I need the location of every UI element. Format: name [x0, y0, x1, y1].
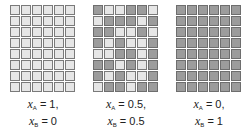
subscript-a: A — [33, 105, 37, 111]
site-species-a — [54, 60, 64, 70]
site-species-b — [231, 38, 241, 48]
panel-equal-mixture: xA = 0.5, xB = 0.5 — [84, 0, 168, 129]
site-species-a — [21, 49, 31, 59]
site-species-b — [115, 49, 125, 59]
site-species-a — [43, 5, 53, 15]
site-species-a — [10, 49, 20, 59]
subscript-b: B — [200, 122, 204, 128]
site-species-b — [104, 60, 114, 70]
site-species-a — [43, 27, 53, 37]
site-species-b — [176, 49, 186, 59]
site-species-a — [32, 71, 42, 81]
subscript-b: B — [34, 122, 38, 128]
site-species-a — [21, 27, 31, 37]
site-species-b — [198, 49, 208, 59]
site-species-b — [137, 27, 147, 37]
site-species-b — [148, 82, 158, 92]
site-species-b — [187, 60, 197, 70]
xa-value: = 0, — [206, 98, 225, 110]
site-species-b — [209, 82, 219, 92]
site-species-a — [32, 49, 42, 59]
site-species-b — [231, 27, 241, 37]
site-species-a — [43, 71, 53, 81]
site-species-a — [10, 38, 20, 48]
site-species-b — [209, 5, 219, 15]
site-species-a — [10, 82, 20, 92]
site-species-a — [10, 71, 20, 81]
site-species-a — [54, 27, 64, 37]
site-species-b — [209, 60, 219, 70]
site-species-a — [32, 60, 42, 70]
site-species-b — [104, 27, 114, 37]
site-species-b — [198, 16, 208, 26]
site-species-b — [220, 16, 230, 26]
site-species-a — [126, 82, 136, 92]
site-species-a — [104, 5, 114, 15]
panel-pure-b: xA = 0, xB = 1 — [167, 0, 251, 129]
site-species-b — [148, 38, 158, 48]
site-species-b — [198, 27, 208, 37]
site-species-b — [148, 60, 158, 70]
lattice-grid — [10, 5, 75, 92]
site-species-a — [32, 82, 42, 92]
site-species-b — [115, 16, 125, 26]
site-species-b — [126, 60, 136, 70]
site-species-b — [231, 5, 241, 15]
site-species-b — [231, 60, 241, 70]
site-species-a — [10, 27, 20, 37]
site-species-b — [104, 16, 114, 26]
site-species-b — [198, 60, 208, 70]
site-species-a — [65, 82, 75, 92]
site-species-a — [43, 82, 53, 92]
site-species-a — [104, 71, 114, 81]
site-species-a — [148, 5, 158, 15]
site-species-a — [32, 16, 42, 26]
subscript-a: A — [111, 105, 115, 111]
site-species-b — [115, 82, 125, 92]
site-species-a — [93, 49, 103, 59]
site-species-b — [187, 82, 197, 92]
subscript-b: B — [113, 122, 117, 128]
site-species-b — [93, 71, 103, 81]
site-species-a — [104, 38, 114, 48]
site-species-a — [126, 38, 136, 48]
site-species-b — [148, 49, 158, 59]
site-species-b — [93, 60, 103, 70]
site-species-b — [115, 71, 125, 81]
site-species-a — [137, 71, 147, 81]
site-species-b — [176, 27, 186, 37]
site-species-a — [21, 16, 31, 26]
site-species-a — [137, 49, 147, 59]
site-species-b — [126, 49, 136, 59]
site-species-b — [115, 38, 125, 48]
site-species-a — [21, 38, 31, 48]
site-species-a — [21, 60, 31, 70]
site-species-a — [65, 60, 75, 70]
site-species-a — [21, 5, 31, 15]
site-species-a — [126, 27, 136, 37]
site-species-a — [10, 5, 20, 15]
site-species-b — [198, 38, 208, 48]
site-species-b — [220, 27, 230, 37]
site-species-b — [176, 16, 186, 26]
site-species-b — [93, 5, 103, 15]
site-species-a — [65, 27, 75, 37]
composition-label: xA = 0.5, xB = 0.5 — [84, 98, 168, 129]
site-species-a — [54, 5, 64, 15]
site-species-a — [54, 38, 64, 48]
site-species-a — [43, 60, 53, 70]
subscript-a: A — [199, 105, 203, 111]
site-species-b — [198, 5, 208, 15]
site-species-b — [198, 82, 208, 92]
site-species-b — [176, 71, 186, 81]
composition-label: xA = 0, xB = 1 — [167, 98, 251, 129]
site-species-b — [126, 5, 136, 15]
xa-value: = 0.5, — [118, 98, 146, 110]
site-species-b — [187, 38, 197, 48]
site-species-a — [65, 49, 75, 59]
site-species-a — [137, 60, 147, 70]
site-species-a — [148, 27, 158, 37]
site-species-b — [148, 71, 158, 81]
site-species-a — [54, 49, 64, 59]
site-species-a — [137, 38, 147, 48]
